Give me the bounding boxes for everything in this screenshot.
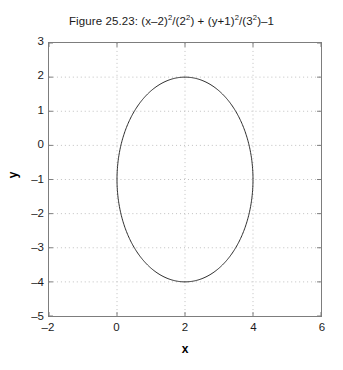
y-axis-label: y — [6, 160, 20, 190]
title-part-0: Figure 25.23: (x–2) — [69, 15, 168, 27]
y-tick-label: –4 — [4, 277, 44, 289]
plot-area — [48, 42, 322, 317]
y-tick-label: 0 — [4, 139, 44, 151]
figure-container: Figure 25.23: (x–2)2/(22) + (y+1)2/(32)–… — [0, 0, 343, 370]
y-tick-label: 3 — [4, 36, 44, 48]
plot-canvas — [49, 43, 321, 316]
x-axis-label: x — [48, 342, 322, 356]
x-tick-label: 6 — [302, 322, 342, 334]
title-part-8: )–1 — [257, 15, 274, 27]
x-tick-label: 0 — [97, 322, 137, 334]
grid-lines — [49, 43, 321, 316]
y-tick-label: –5 — [4, 311, 44, 323]
chart-title: Figure 25.23: (x–2)2/(22) + (y+1)2/(32)–… — [0, 14, 343, 28]
title-part-2: /(2 — [172, 15, 186, 27]
y-tick-label: 1 — [4, 105, 44, 117]
y-tick-label: 2 — [4, 70, 44, 82]
y-tick-label: –2 — [4, 208, 44, 220]
x-axis-tick-labels: –20246 — [48, 322, 322, 338]
title-part-6: /(3 — [239, 15, 253, 27]
x-tick-label: 4 — [234, 322, 274, 334]
y-tick-label: –3 — [4, 242, 44, 254]
x-tick-label: –2 — [28, 322, 68, 334]
title-part-4: ) + (y+1) — [190, 15, 234, 27]
x-tick-label: 2 — [165, 322, 205, 334]
